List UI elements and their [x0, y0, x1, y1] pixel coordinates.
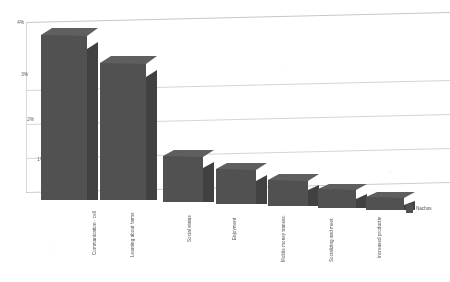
- bar-top-face: [216, 163, 267, 170]
- bar-top-face: [41, 28, 98, 36]
- bar-side-face: [203, 162, 214, 202]
- category-label-increased-productivity: Increased productiv: [377, 217, 382, 258]
- legend-label-nacbos: Nacbos: [416, 206, 432, 211]
- bar-mobile-money-transactions: [268, 180, 308, 206]
- legend-swatch-nacbos: [406, 204, 413, 213]
- bar-top-face: [163, 150, 214, 157]
- category-label-enjoyment: Enjoyment: [232, 218, 237, 240]
- bar-top-face: [366, 192, 415, 198]
- bar-side-face: [256, 175, 267, 204]
- bar-socializing-and-meeting: [318, 189, 356, 208]
- category-label-mobile-money-transactions: Mobile money transac.: [281, 215, 286, 262]
- bar-increased-productivity: [366, 197, 404, 210]
- y-axis-line: [26, 22, 27, 192]
- y-tick-label-2: 2%: [12, 117, 34, 122]
- bar-side-face: [87, 42, 98, 200]
- bar-top-face: [268, 174, 319, 181]
- bar-social-status: [163, 156, 203, 202]
- y-tick-label-4: 4%: [2, 20, 24, 25]
- chart-legend: Nacbos: [406, 204, 432, 213]
- bar-front-face: [163, 156, 203, 202]
- bar-communication-cell: [41, 35, 87, 200]
- bar-side-face: [146, 70, 157, 200]
- bar-enjoyment: [216, 169, 256, 204]
- category-label-communication-cell: Communication - cell: [92, 211, 97, 255]
- bar-front-face: [100, 63, 146, 200]
- category-label-learning-about-farms: Learning about farms: [130, 212, 135, 257]
- bar-front-face: [41, 35, 87, 200]
- category-label-social-status: Social status: [187, 215, 192, 242]
- bar-learning-about-farms: [100, 63, 146, 200]
- y-tick-label-3: 3%: [6, 72, 28, 77]
- category-label-socializing-and-meeting: Socializing and meet: [329, 218, 334, 262]
- gridline-4-percent: [26, 12, 450, 23]
- bar-front-face: [268, 180, 308, 206]
- bar-front-face: [366, 197, 404, 210]
- bar-front-face: [216, 169, 256, 204]
- bar-top-face: [100, 56, 157, 64]
- bar-front-face: [318, 189, 356, 208]
